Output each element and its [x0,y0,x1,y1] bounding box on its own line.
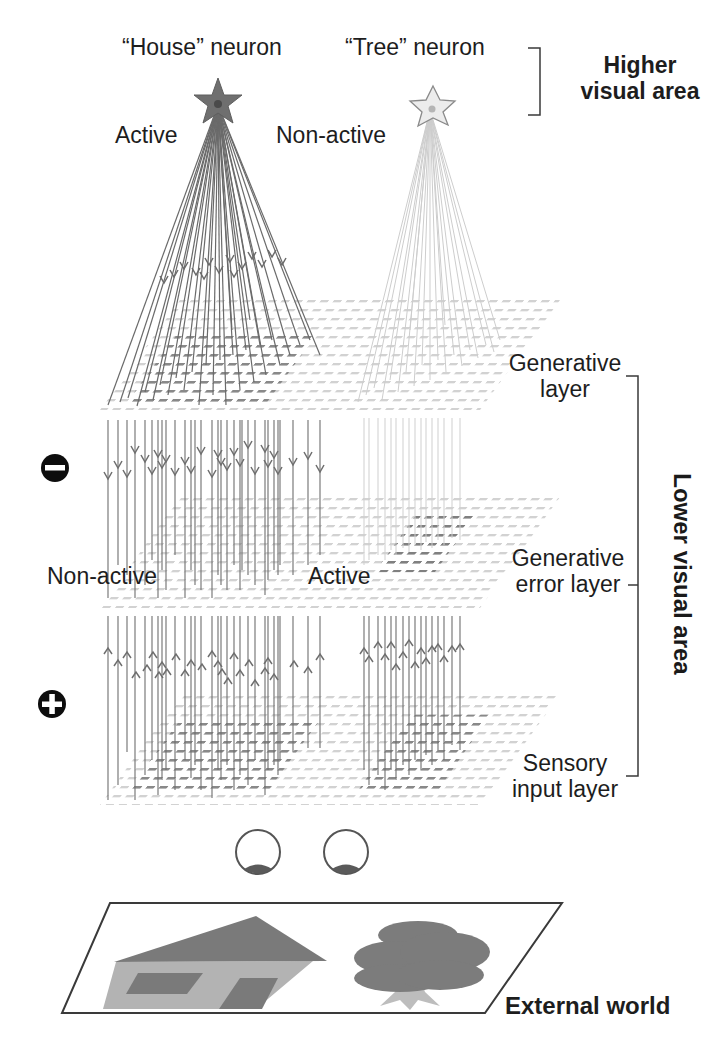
sensory-layer-label: Sensory input layer [500,750,630,802]
error-arrowheads-right [360,640,464,670]
generative-layer-label: Generative layer [500,350,630,402]
higher-area-line2: visual area [560,78,720,104]
predictive-coding-diagram [0,0,721,1040]
prediction-arrowheads-left [104,441,324,479]
generative-layer-plane [100,300,560,410]
tree-neuron-state: Non-active [276,122,386,148]
external-world-label: External world [505,993,670,1019]
sensory-layer-line1: Sensory [500,750,630,776]
minus-sign-icon [41,454,69,482]
tree-neuron-label: “Tree” neuron [345,34,485,60]
error-left-state: Non-active [47,563,157,589]
house-neuron-label: “House” neuron [122,34,282,60]
error-layer-line2: error layer [498,571,638,597]
higher-area-label: Higher visual area [560,52,720,104]
lower-area-label: Lower visual area [668,464,696,684]
sensory-layer-line2: input layer [500,776,630,802]
left-eye-icon [236,830,280,874]
sensory-input-layer-plane [100,695,560,805]
error-arrowheads-left [104,648,324,686]
higher-area-bracket [528,48,540,115]
error-layer-line1: Generative [498,545,638,571]
generative-error-layer-plane [100,497,560,608]
error-right-state: Active [308,563,371,589]
right-eye-icon [324,830,368,874]
generative-layer-line1: Generative [500,350,630,376]
error-layer-label: Generative error layer [498,545,638,597]
house-neuron-state: Active [115,122,178,148]
plus-sign-icon [38,690,66,718]
generative-layer-line2: layer [500,376,630,402]
higher-area-line1: Higher [560,52,720,78]
